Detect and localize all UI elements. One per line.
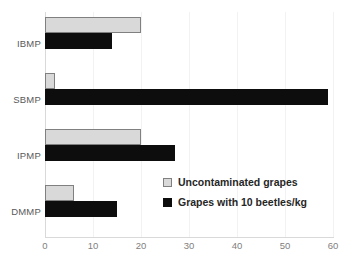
x-tick-50: 50 — [265, 240, 305, 251]
chart-legend: Uncontaminated grapes Grapes with 10 bee… — [163, 176, 307, 208]
x-tick-30: 30 — [169, 240, 209, 251]
x-tick-20: 20 — [121, 240, 161, 251]
x-tick-60: 60 — [313, 240, 350, 251]
category-label-3: DMMP — [0, 206, 41, 217]
x-tick-40: 40 — [217, 240, 257, 251]
bar-group-ibmp — [45, 12, 333, 68]
light-square-icon — [163, 178, 172, 187]
category-label-2: IPMP — [0, 150, 41, 161]
legend-label-uncontaminated: Uncontaminated grapes — [178, 176, 298, 188]
bar-ipmp-uncontaminated — [45, 129, 141, 145]
bar-ibmp-contaminated — [45, 33, 112, 49]
bar-group-ipmp — [45, 124, 333, 180]
x-axis-line — [45, 237, 334, 238]
legend-item-uncontaminated: Uncontaminated grapes — [163, 176, 307, 188]
bar-ibmp-uncontaminated — [45, 17, 141, 33]
category-axis: IBMP SBMP IPMP DMMP — [0, 12, 41, 237]
gridline-60 — [333, 12, 334, 237]
legend-label-contaminated: Grapes with 10 beetles/kg — [178, 196, 307, 208]
legend-item-contaminated: Grapes with 10 beetles/kg — [163, 196, 307, 208]
bar-dmmp-uncontaminated — [45, 185, 74, 201]
bar-sbmp-uncontaminated — [45, 73, 55, 89]
x-tick-10: 10 — [73, 240, 113, 251]
bar-dmmp-contaminated — [45, 201, 117, 217]
bar-ipmp-contaminated — [45, 145, 175, 161]
plot-area: Uncontaminated grapes Grapes with 10 bee… — [45, 12, 333, 237]
bar-group-sbmp — [45, 68, 333, 124]
category-label-1: SBMP — [0, 94, 41, 105]
category-label-0: IBMP — [0, 38, 41, 49]
dark-square-icon — [163, 198, 172, 207]
x-tick-0: 0 — [25, 240, 65, 251]
bar-chart: IBMP SBMP IPMP DMMP — [0, 0, 350, 263]
bar-sbmp-contaminated — [45, 89, 328, 105]
